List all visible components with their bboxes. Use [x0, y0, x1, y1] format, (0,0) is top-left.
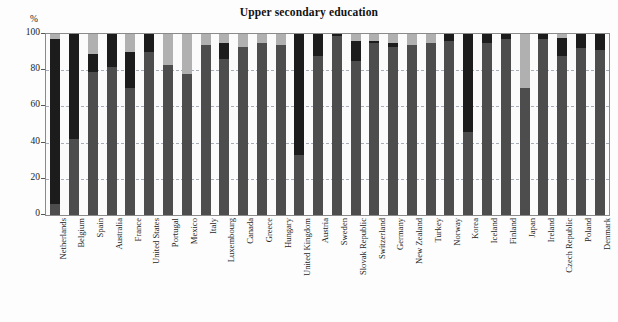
bar-stack[interactable]	[201, 34, 211, 215]
bar-segment-upper-segment	[276, 34, 286, 45]
bar-segment-lower-segment	[144, 52, 154, 215]
bar-segment-lower-segment	[520, 88, 530, 215]
bar-segment-upper-segment	[238, 34, 248, 47]
bar-segment-middle-segment	[294, 34, 304, 155]
bar-stack[interactable]	[388, 34, 398, 215]
bar-stack[interactable]	[595, 34, 605, 215]
bar-segment-upper-segment	[125, 34, 135, 52]
bar-stack[interactable]	[482, 34, 492, 215]
bar-segment-middle-segment	[144, 34, 154, 52]
bar-segment-upper-segment	[388, 34, 398, 43]
bar-stack[interactable]	[50, 34, 60, 215]
x-axis-tick-label: Netherlands	[58, 218, 68, 260]
bar-segment-lower-segment	[201, 45, 211, 215]
bar-segment-upper-segment	[407, 34, 417, 45]
x-axis-tick-label: United Kingdom	[302, 218, 312, 276]
bar-segment-upper-segment	[201, 34, 211, 45]
x-axis-tick-label: Japan	[527, 218, 537, 238]
y-axis-tick-label: 20	[2, 172, 40, 182]
bar-stack[interactable]	[238, 34, 248, 215]
bar-segment-middle-segment	[557, 38, 567, 56]
bar-segment-lower-segment	[332, 36, 342, 215]
bar-segment-middle-segment	[388, 43, 398, 47]
x-axis-tick-label: Germany	[395, 218, 405, 250]
bar-stack[interactable]	[407, 34, 417, 215]
bar-stack[interactable]	[538, 34, 548, 215]
bar-stack[interactable]	[313, 34, 323, 215]
bar-stack[interactable]	[369, 34, 379, 215]
bar-segment-middle-segment	[69, 34, 79, 139]
bar-stack[interactable]	[332, 34, 342, 215]
x-axis-tick-label: Poland	[583, 218, 593, 242]
bar-stack[interactable]	[276, 34, 286, 215]
bar-segment-lower-segment	[407, 45, 417, 215]
bar-stack[interactable]	[125, 34, 135, 215]
bar-segment-lower-segment	[557, 56, 567, 215]
bar-stack[interactable]	[88, 34, 98, 215]
plot-area	[45, 33, 610, 216]
x-axis-tick-label: Czech Republic	[564, 218, 574, 273]
bar-stack[interactable]	[463, 34, 473, 215]
bar-segment-lower-segment	[294, 155, 304, 215]
y-axis-tick-label: 100	[2, 27, 40, 37]
bar-stack[interactable]	[107, 34, 117, 215]
bar-segment-lower-segment	[444, 41, 454, 215]
bar-stack[interactable]	[257, 34, 267, 215]
x-axis-tick-label: Belgium	[76, 218, 86, 248]
bar-stack[interactable]	[219, 34, 229, 215]
x-axis-tick-label: Canada	[245, 218, 255, 244]
bar-segment-lower-segment	[163, 65, 173, 215]
bar-stack[interactable]	[351, 34, 361, 215]
bar-segment-lower-segment	[538, 39, 548, 215]
bar-segment-middle-segment	[313, 34, 323, 56]
bar-segment-lower-segment	[50, 204, 60, 215]
bar-segment-lower-segment	[257, 43, 267, 215]
x-axis-tick-label: Portugal	[170, 218, 180, 247]
bar-segment-lower-segment	[388, 47, 398, 215]
bar-segment-middle-segment	[444, 34, 454, 41]
bar-stack[interactable]	[294, 34, 304, 215]
bar-segment-middle-segment	[369, 41, 379, 43]
bar-segment-lower-segment	[426, 43, 436, 215]
y-axis-tick-label: 40	[2, 136, 40, 146]
bar-stack[interactable]	[501, 34, 511, 215]
y-axis-tick-label: 0	[2, 208, 40, 218]
x-axis-tick-label: Mexico	[189, 218, 199, 244]
x-axis-tick-label: Australia	[114, 218, 124, 250]
x-axis-tick-label: Ireland	[546, 218, 556, 242]
bar-segment-middle-segment	[88, 54, 98, 72]
bar-segment-upper-segment	[219, 34, 229, 43]
bar-segment-upper-segment	[88, 34, 98, 54]
bar-stack[interactable]	[520, 34, 530, 215]
bar-segment-upper-segment	[163, 34, 173, 65]
x-axis-tick-label: France	[133, 218, 143, 241]
x-axis-tick-label: Hungary	[283, 218, 293, 248]
bar-stack[interactable]	[557, 34, 567, 215]
x-axis-tick-label: Spain	[95, 218, 105, 238]
bar-segment-lower-segment	[463, 132, 473, 215]
y-axis-unit-label: %	[30, 14, 38, 24]
bar-segment-middle-segment	[332, 34, 342, 36]
x-axis-tick-label: New Zealand	[414, 218, 424, 264]
bar-segment-middle-segment	[50, 39, 60, 204]
x-axis-tick-label: United States	[151, 218, 161, 264]
bar-segment-upper-segment	[557, 34, 567, 38]
bar-segment-middle-segment	[501, 34, 511, 39]
x-axis-tick-label: Luxembourg	[226, 218, 236, 262]
bar-stack[interactable]	[163, 34, 173, 215]
bar-segment-middle-segment	[351, 41, 361, 61]
bar-segment-upper-segment	[50, 34, 60, 39]
bar-stack[interactable]	[426, 34, 436, 215]
bar-segment-middle-segment	[463, 34, 473, 132]
bar-stack[interactable]	[69, 34, 79, 215]
bar-stack[interactable]	[444, 34, 454, 215]
bar-stack[interactable]	[144, 34, 154, 215]
bar-segment-middle-segment	[482, 34, 492, 43]
chart-title: Upper secondary education	[0, 6, 618, 18]
bar-stack[interactable]	[576, 34, 586, 215]
bar-segment-upper-segment	[257, 34, 267, 43]
bar-stack[interactable]	[182, 34, 192, 215]
bar-segment-upper-segment	[182, 34, 192, 74]
x-axis-tick-label: Austria	[320, 218, 330, 243]
bar-segment-upper-segment	[426, 34, 436, 43]
